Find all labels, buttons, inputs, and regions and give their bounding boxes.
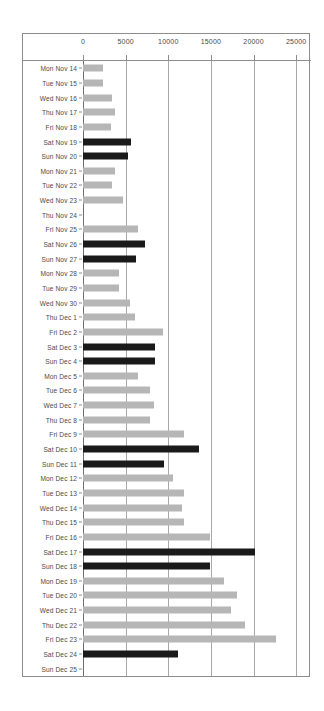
y-axis-tick-mark bbox=[79, 449, 82, 450]
bar bbox=[83, 284, 119, 291]
y-axis-tick-mark bbox=[79, 97, 82, 98]
y-axis-tick-mark bbox=[79, 580, 82, 581]
y-axis-category-label: Mon Nov 28 bbox=[40, 270, 77, 277]
bar bbox=[83, 241, 145, 248]
bar bbox=[83, 167, 115, 174]
y-axis-category-label: Thu Dec 22 bbox=[42, 621, 77, 628]
y-axis-category-label: Sun Dec 4 bbox=[45, 358, 77, 365]
y-axis-category-label: Mon Dec 5 bbox=[44, 372, 77, 379]
bar bbox=[83, 533, 210, 540]
y-axis-category-label: Fri Nov 18 bbox=[46, 123, 77, 130]
bar bbox=[83, 446, 199, 453]
y-axis-category-label: Sat Dec 3 bbox=[47, 343, 77, 350]
y-axis-tick-mark bbox=[79, 654, 82, 655]
bar-row: Fri Dec 9 bbox=[23, 427, 311, 442]
bar-row: Thu Dec 1 bbox=[23, 310, 311, 325]
bar-row: Wed Dec 14 bbox=[23, 500, 311, 515]
bar bbox=[83, 519, 184, 526]
bar bbox=[83, 358, 155, 365]
y-axis-tick-mark bbox=[79, 214, 82, 215]
y-axis-category-label: Tue Dec 13 bbox=[42, 489, 77, 496]
bar-row: Thu Dec 8 bbox=[23, 412, 311, 427]
y-axis-tick-mark bbox=[79, 507, 82, 508]
y-axis-category-label: Sat Nov 26 bbox=[43, 241, 77, 248]
y-axis-tick-mark bbox=[79, 390, 82, 391]
bar-row: Thu Nov 17 bbox=[23, 105, 311, 120]
y-axis-category-label: Wed Nov 30 bbox=[40, 299, 77, 306]
y-axis-category-label: Sat Dec 17 bbox=[43, 548, 77, 555]
bar-row: Sun Dec 25 bbox=[23, 661, 311, 676]
x-axis-tick-label: 0 bbox=[81, 38, 85, 45]
bar bbox=[83, 182, 112, 189]
bar bbox=[83, 504, 182, 511]
bar-row: Mon Dec 19 bbox=[23, 574, 311, 589]
y-axis-tick-mark bbox=[79, 273, 82, 274]
y-axis-category-label: Fri Dec 16 bbox=[46, 533, 77, 540]
bar bbox=[83, 489, 184, 496]
y-axis-category-label: Thu Dec 1 bbox=[46, 314, 77, 321]
y-axis-tick-mark bbox=[79, 434, 82, 435]
bar bbox=[83, 226, 138, 233]
bar-row: Fri Dec 23 bbox=[23, 632, 311, 647]
y-axis-category-label: Sat Dec 24 bbox=[43, 651, 77, 658]
bar bbox=[83, 372, 138, 379]
bar bbox=[83, 65, 103, 72]
bar-row: Wed Nov 16 bbox=[23, 90, 311, 105]
y-axis-category-label: Thu Nov 17 bbox=[42, 109, 77, 116]
bar bbox=[83, 123, 111, 130]
y-axis-category-label: Fri Dec 23 bbox=[46, 636, 77, 643]
bar-row: Tue Dec 13 bbox=[23, 486, 311, 501]
x-axis: 0500010000150002000025000 bbox=[23, 34, 311, 62]
y-axis-category-label: Wed Dec 14 bbox=[40, 504, 77, 511]
bar bbox=[83, 402, 154, 409]
y-axis-tick-mark bbox=[79, 229, 82, 230]
y-axis-tick-mark bbox=[79, 287, 82, 288]
y-axis-tick-mark bbox=[79, 302, 82, 303]
x-axis-tick-label: 10000 bbox=[158, 38, 178, 45]
y-axis-category-label: Tue Nov 29 bbox=[42, 284, 77, 291]
y-axis-tick-mark bbox=[79, 405, 82, 406]
y-axis-category-label: Thu Dec 15 bbox=[42, 519, 77, 526]
bar bbox=[83, 636, 276, 643]
y-axis-tick-mark bbox=[79, 126, 82, 127]
bar bbox=[83, 343, 155, 350]
bar bbox=[83, 416, 150, 423]
bar-row: Sat Dec 24 bbox=[23, 647, 311, 662]
bar-row: Wed Nov 30 bbox=[23, 295, 311, 310]
y-axis-category-label: Sun Nov 27 bbox=[42, 255, 77, 262]
bar bbox=[83, 270, 119, 277]
bar-row: Thu Nov 24 bbox=[23, 207, 311, 222]
y-axis-category-label: Mon Dec 12 bbox=[40, 475, 77, 482]
bar-row: Fri Nov 25 bbox=[23, 222, 311, 237]
x-axis-tick-label: 20000 bbox=[243, 38, 263, 45]
bar-row: Tue Nov 29 bbox=[23, 281, 311, 296]
y-axis-category-label: Wed Nov 16 bbox=[40, 94, 77, 101]
y-axis-tick-mark bbox=[79, 244, 82, 245]
bar bbox=[83, 314, 135, 321]
y-axis-category-label: Sun Nov 20 bbox=[42, 153, 77, 160]
bar-row: Sat Nov 26 bbox=[23, 237, 311, 252]
bar-row: Tue Dec 6 bbox=[23, 383, 311, 398]
bar-row: Sun Dec 4 bbox=[23, 354, 311, 369]
bar-row: Wed Dec 7 bbox=[23, 398, 311, 413]
bar bbox=[83, 255, 136, 262]
bar bbox=[83, 607, 231, 614]
bar-row: Sun Nov 27 bbox=[23, 251, 311, 266]
bar-row: Mon Nov 21 bbox=[23, 164, 311, 179]
x-axis-tick-label: 15000 bbox=[201, 38, 221, 45]
y-axis-category-label: Tue Dec 20 bbox=[42, 592, 77, 599]
y-axis-tick-mark bbox=[79, 375, 82, 376]
y-axis-tick-mark bbox=[79, 522, 82, 523]
y-axis-category-label: Wed Dec 21 bbox=[40, 607, 77, 614]
bar-rows: Mon Nov 14Tue Nov 15Wed Nov 16Thu Nov 17… bbox=[23, 61, 311, 676]
y-axis-category-label: Tue Nov 22 bbox=[42, 182, 77, 189]
bar bbox=[83, 475, 173, 482]
bar-row: Wed Nov 23 bbox=[23, 193, 311, 208]
y-axis-tick-mark bbox=[79, 419, 82, 420]
y-axis-tick-mark bbox=[79, 68, 82, 69]
bar-row: Mon Nov 14 bbox=[23, 61, 311, 76]
bar bbox=[83, 94, 112, 101]
y-axis-tick-mark bbox=[79, 610, 82, 611]
y-axis-category-label: Sun Dec 11 bbox=[42, 460, 77, 467]
bar-row: Sun Nov 20 bbox=[23, 149, 311, 164]
